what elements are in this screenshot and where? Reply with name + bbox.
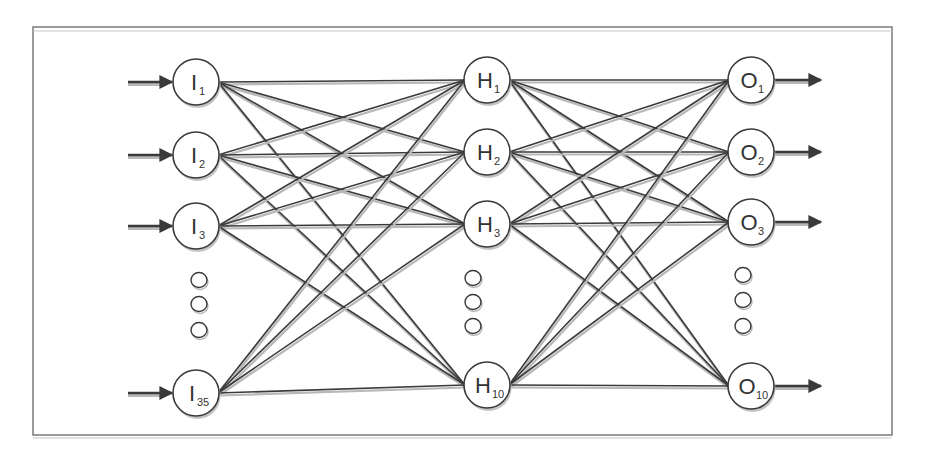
- node-o1: O1: [728, 57, 776, 106]
- edge-input3-hidden3: [218, 224, 465, 226]
- node-o10: O10: [728, 363, 776, 412]
- ellipsis-dot-icon: [735, 293, 751, 308]
- node-circle: [173, 370, 219, 416]
- node-label: H: [475, 373, 491, 398]
- ellipsis-dot-icon: [465, 295, 481, 310]
- node-h2: H2: [464, 129, 512, 178]
- node-label: H: [477, 68, 493, 93]
- ellipsis-dot-icon: [191, 323, 207, 338]
- node-subscript: 10: [492, 388, 504, 400]
- ellipsis-dot-icon: [191, 273, 207, 288]
- node-label: O: [738, 374, 755, 399]
- edge-shadow: [510, 388, 730, 389]
- edge-shadow: [219, 227, 466, 229]
- edge-shadow: [510, 225, 730, 227]
- node-h3: H3: [464, 201, 512, 250]
- node-subscript: 3: [199, 229, 205, 241]
- node-label: O: [740, 140, 757, 165]
- node-i1: I1: [173, 59, 221, 108]
- node-subscript: 1: [758, 83, 764, 95]
- ellipsis-dot-icon: [735, 319, 751, 334]
- node-subscript: 10: [756, 389, 768, 401]
- node-label: H: [477, 140, 493, 165]
- node-o2: O2: [728, 129, 776, 178]
- edge-shadow: [219, 83, 466, 158]
- node-label: H: [477, 212, 493, 237]
- node-label: I: [191, 143, 197, 168]
- node-i3: I3: [173, 203, 221, 252]
- node-subscript: 2: [494, 155, 500, 167]
- neural-network-diagram: I1I2I3I35H1H2H3H10O1O2O3O10: [0, 0, 928, 463]
- edge-hidden3-output4: [509, 224, 729, 386]
- node-label: O: [740, 68, 757, 93]
- edge-input4-hidden2: [218, 152, 465, 393]
- node-subscript: 1: [494, 83, 500, 95]
- ellipsis-dot-icon: [191, 297, 207, 312]
- node-subscript: 2: [758, 155, 764, 167]
- edge-hidden4-output4: [509, 385, 729, 386]
- edge-input1-hidden1: [218, 80, 465, 82]
- node-o3: O3: [728, 199, 776, 248]
- ellipsis-dot-icon: [465, 319, 481, 334]
- node-subscript: 1: [199, 85, 205, 97]
- edge-hidden3-output3: [509, 222, 729, 224]
- ellipsis-dot-icon: [735, 268, 751, 283]
- node-label: O: [740, 210, 757, 235]
- node-h10: H10: [464, 362, 512, 411]
- node-h1: H1: [464, 57, 512, 106]
- edge-hidden4-output3: [509, 222, 729, 385]
- node-i2: I2: [173, 132, 221, 181]
- node-label: I: [189, 381, 195, 406]
- ellipsis-dot-icon: [465, 271, 481, 286]
- node-subscript: 2: [199, 158, 205, 170]
- node-label: I: [191, 70, 197, 95]
- node-subscript: 3: [494, 227, 500, 239]
- node-i35: I35: [173, 370, 221, 419]
- node-subscript: 3: [758, 225, 764, 237]
- edge-shadow: [219, 83, 466, 85]
- node-subscript: 35: [197, 396, 209, 408]
- node-label: I: [191, 214, 197, 239]
